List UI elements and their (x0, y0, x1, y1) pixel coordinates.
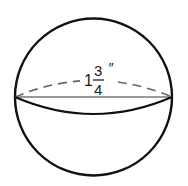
label-denominator: 4 (94, 81, 102, 98)
equator-front (15, 97, 172, 114)
sphere-diagram: 1 3 4 ″ (0, 0, 188, 186)
label-whole: 1 (84, 72, 93, 89)
label-numerator: 3 (94, 62, 102, 79)
